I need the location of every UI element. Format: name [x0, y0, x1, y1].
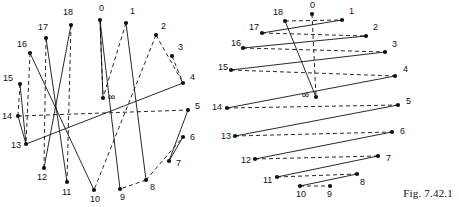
left-solid-edge	[100, 20, 120, 189]
left-dashed-edge	[67, 25, 71, 182]
right-vertex-4[interactable]	[393, 74, 397, 78]
left-vertex-label-16: 16	[17, 39, 27, 49]
right-solid-edge	[255, 132, 392, 159]
right-vertex-12[interactable]	[253, 157, 257, 161]
left-vertex-label-2: 2	[161, 21, 166, 31]
right-vertex-label-5: 5	[406, 96, 411, 106]
right-solid-edge	[243, 36, 366, 48]
left-vertex-10[interactable]	[92, 188, 96, 192]
right-vertex-1[interactable]	[340, 18, 344, 22]
right-vertex-label-18: 18	[273, 7, 283, 17]
left-vertex-2[interactable]	[154, 33, 158, 37]
right-dashed-edge	[235, 132, 392, 136]
figure-caption: Fig. 7.42.1	[403, 187, 453, 199]
left-vertex-label-14: 14	[2, 111, 12, 121]
right-vertex-13[interactable]	[233, 134, 237, 138]
right-vertex-label-7: 7	[386, 153, 391, 163]
right-vertex-6[interactable]	[390, 130, 394, 134]
left-dashed-edge	[44, 38, 46, 168]
left-vertex-label-1: 1	[130, 6, 135, 16]
left-dashed-edge	[18, 110, 188, 116]
left-dashed-edge	[120, 180, 146, 189]
left-vertex-label-11: 11	[62, 187, 71, 197]
figure-canvas: 0123456789101112131415161718∞ 0118172163…	[0, 0, 459, 207]
left-vertex-label-5: 5	[195, 101, 200, 111]
left-vertex-label-3: 3	[178, 42, 183, 52]
left-vertex-label-18: 18	[63, 7, 73, 17]
left-vertex-label-17: 17	[38, 22, 48, 32]
left-vertex-1[interactable]	[124, 21, 128, 25]
right-vertex-label-3: 3	[392, 39, 397, 49]
right-vertex-label-13: 13	[221, 131, 231, 141]
right-solid-edge	[262, 20, 342, 33]
left-dashed-edge	[18, 84, 20, 116]
right-vertex-16[interactable]	[241, 46, 245, 50]
left-vertex-11[interactable]	[65, 180, 69, 184]
right-vertex-label-11: 11	[263, 175, 272, 185]
right-vertex-18[interactable]	[283, 19, 287, 23]
right-vertex-15[interactable]	[229, 68, 233, 72]
right-vertex-label-10: 10	[296, 189, 306, 199]
right-vertex-2[interactable]	[364, 34, 368, 38]
right-vertex-3[interactable]	[383, 50, 387, 54]
left-vertex-17[interactable]	[44, 36, 48, 40]
right-vertex-17[interactable]	[260, 31, 264, 35]
right-vertex-label-15: 15	[218, 62, 228, 72]
right-vertex-label-12: 12	[241, 155, 251, 165]
right-dashed-edge	[231, 70, 395, 76]
right-configuration: 0118172163154∞145136127118109	[212, 0, 411, 199]
left-vertex-label-6: 6	[190, 132, 195, 142]
left-vertex-18[interactable]	[69, 23, 73, 27]
right-vertex-label-2: 2	[373, 22, 378, 32]
right-dashed-edge	[255, 156, 378, 159]
left-vertex-15[interactable]	[18, 82, 22, 86]
right-vertex-5[interactable]	[396, 103, 400, 107]
right-vertex-14[interactable]	[225, 106, 229, 110]
right-vertex-label-9: 9	[327, 189, 332, 199]
right-vertex-8[interactable]	[355, 172, 359, 176]
left-dashed-edge	[26, 53, 30, 144]
right-vertex-0[interactable]	[310, 12, 314, 16]
left-vertex-8[interactable]	[144, 178, 148, 182]
right-dashed-edge	[262, 33, 366, 36]
right-vertex-9[interactable]	[328, 184, 332, 188]
left-vertex-label-8: 8	[150, 182, 155, 192]
left-vertex-label-9: 9	[120, 192, 125, 202]
left-vertex-∞[interactable]	[101, 96, 105, 100]
right-vertex-11[interactable]	[275, 175, 279, 179]
left-vertex-label-∞: ∞	[108, 91, 115, 102]
left-dashed-edge	[172, 56, 183, 83]
right-solid-edge	[235, 105, 398, 136]
right-vertex-∞[interactable]	[314, 95, 318, 99]
left-vertex-16[interactable]	[28, 51, 32, 55]
left-vertex-label-0: 0	[99, 3, 104, 13]
left-vertex-12[interactable]	[42, 166, 46, 170]
right-vertex-label-4: 4	[403, 64, 408, 74]
left-vertex-4[interactable]	[181, 81, 185, 85]
left-vertex-13[interactable]	[24, 142, 28, 146]
left-vertex-3[interactable]	[170, 54, 174, 58]
right-dashed-edge	[227, 105, 398, 108]
left-vertex-7[interactable]	[167, 159, 171, 163]
left-vertex-9[interactable]	[118, 187, 122, 191]
left-vertex-14[interactable]	[16, 114, 20, 118]
figure-container: 0123456789101112131415161718∞ 0118172163…	[0, 0, 459, 207]
right-vertex-label-17: 17	[249, 22, 259, 32]
left-vertex-6[interactable]	[181, 135, 185, 139]
right-vertex-label-0: 0	[310, 0, 315, 10]
right-vertex-label-16: 16	[231, 38, 241, 48]
right-vertex-label-∞: ∞	[302, 89, 309, 100]
left-dashed-edge	[103, 23, 126, 98]
left-solid-edge	[44, 25, 71, 168]
left-vertex-label-15: 15	[3, 73, 13, 83]
left-vertex-label-4: 4	[190, 72, 195, 82]
right-vertex-10[interactable]	[298, 184, 302, 188]
left-vertex-label-7: 7	[176, 158, 181, 168]
right-vertex-label-8: 8	[360, 177, 365, 187]
left-vertex-0[interactable]	[98, 18, 102, 22]
right-vertex-7[interactable]	[376, 154, 380, 158]
right-solid-edge	[285, 21, 316, 97]
right-vertex-label-6: 6	[400, 126, 405, 136]
left-vertex-5[interactable]	[186, 108, 190, 112]
right-dashed-edge	[312, 14, 316, 97]
